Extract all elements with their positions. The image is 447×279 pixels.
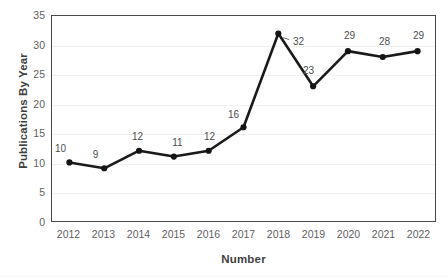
plot-area: 109121112163223292829 bbox=[51, 15, 436, 222]
data-point-marker bbox=[66, 159, 72, 165]
y-tick-label: 30 bbox=[1, 39, 45, 51]
y-tick-label: 0 bbox=[1, 216, 45, 228]
data-point-marker bbox=[171, 154, 177, 160]
y-tick-label: 25 bbox=[1, 68, 45, 80]
data-point-marker bbox=[415, 48, 421, 54]
y-tick-label: 5 bbox=[1, 186, 45, 198]
data-point-marker bbox=[275, 31, 281, 37]
y-tick-label: 35 bbox=[1, 9, 45, 21]
y-tick-label: 15 bbox=[1, 127, 45, 139]
data-series-line bbox=[69, 34, 417, 169]
x-tick-label: 2022 bbox=[397, 228, 441, 240]
y-tick-label: 20 bbox=[1, 98, 45, 110]
data-point-marker bbox=[206, 148, 212, 154]
data-point-marker bbox=[310, 83, 316, 89]
x-axis-title: Number bbox=[51, 253, 436, 265]
line-chart: Publications By Year 05101520253035 1091… bbox=[0, 0, 447, 279]
y-axis-tick-labels: 05101520253035 bbox=[0, 15, 45, 222]
x-axis-tick-labels: 2012201320142015201620172018201920202021… bbox=[51, 228, 436, 244]
scan-artifact-line bbox=[0, 276, 447, 277]
data-point-marker bbox=[240, 124, 246, 130]
data-point-marker bbox=[136, 148, 142, 154]
data-point-marker bbox=[345, 48, 351, 54]
y-tick-label: 10 bbox=[1, 157, 45, 169]
series-line bbox=[52, 16, 435, 221]
data-point-marker bbox=[380, 54, 386, 60]
data-point-marker bbox=[101, 165, 107, 171]
